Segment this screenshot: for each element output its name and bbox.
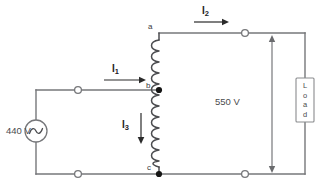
current-label-i2: I2 [202,6,209,16]
source-voltage-label: 440 V [6,126,31,136]
terminal-output-bottom[interactable] [242,171,249,178]
current-label-i1: I1 [112,64,119,74]
autotransformer-winding [152,40,160,167]
load-letter-1: o [296,91,314,101]
node-label-b: b [146,82,150,90]
node-label-c: c [147,164,151,172]
arrow-head-output-voltage-bottom [269,166,275,173]
node-dot-b [156,87,162,93]
arrow-head-i2 [222,19,229,26]
current-label-i3: I3 [122,120,129,130]
node-label-a: a [148,23,152,31]
arrow-head-output-voltage-top [269,35,275,42]
output-voltage-label: 550 V [215,97,240,107]
current-label-i3-sub: 3 [125,123,129,132]
arrow-head-i1 [139,77,146,84]
terminal-input-bottom[interactable] [75,171,82,178]
current-label-i2-sub: 2 [205,9,209,18]
current-label-i1-sub: 1 [115,67,119,76]
terminal-output-top[interactable] [242,30,249,37]
circuit-schematic-svg [0,0,317,186]
load-label: L o a d [296,81,314,119]
terminal-input-top[interactable] [75,87,82,94]
node-dot-c [156,171,162,177]
load-letter-2: a [296,100,314,110]
load-letter-3: d [296,110,314,120]
circuit-diagram-canvas: 440 V 550 V a b c I1 I2 I3 L o a d [0,0,317,186]
arrow-head-i3 [138,137,145,144]
load-letter-0: L [296,81,314,91]
